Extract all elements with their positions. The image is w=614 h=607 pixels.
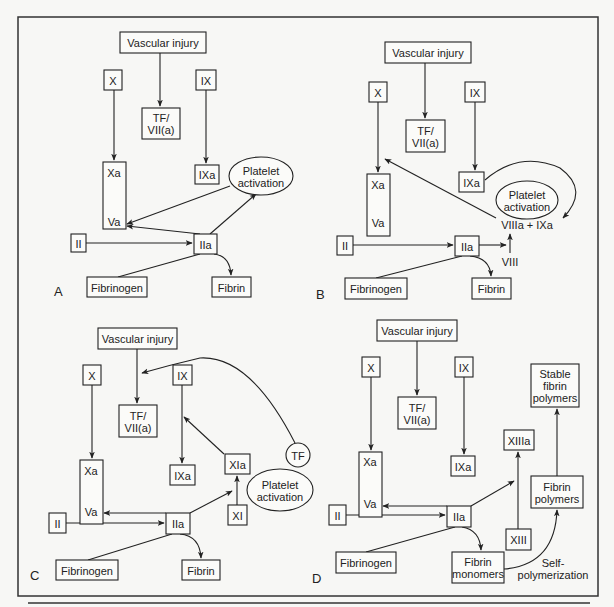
- fibrin-label: Fibrin: [218, 282, 246, 294]
- node-ix: IX: [465, 82, 485, 102]
- x-label: X: [109, 75, 117, 87]
- platelet-activation-label: Plateletactivation: [257, 479, 303, 503]
- node-tf-vii-a: TF/VII(a): [142, 108, 180, 139]
- xi-label: XI: [232, 510, 242, 522]
- node-ii: II: [49, 513, 66, 533]
- node-va-label: Va: [372, 217, 386, 229]
- node-ix: IX: [196, 70, 216, 90]
- x-label: X: [374, 87, 382, 99]
- node-va-label: Va: [108, 216, 122, 228]
- ix-label: IX: [470, 87, 481, 99]
- diagram-canvas: Vascular injuryXIXTF/VII(a)XaVaIXaPlatel…: [0, 0, 614, 607]
- xa-label-label: Xa: [107, 167, 121, 179]
- x-label: X: [88, 370, 96, 382]
- va-label-label: Va: [108, 216, 122, 228]
- arrow-connector: [210, 194, 256, 234]
- ixa-label: IXa: [174, 470, 191, 482]
- panel-c: Vascular injuryXIXTF/VII(a)XaVaIXaXIaTFP…: [30, 328, 313, 583]
- coagulation-cascade-figure: Vascular injuryXIXTF/VII(a)XaVaIXaPlatel…: [0, 0, 614, 607]
- node-fibrin: Fibrin: [182, 560, 220, 580]
- iia-label: IIa: [172, 518, 185, 530]
- node-xa-label: Xa: [84, 465, 98, 477]
- vascular-injury-label: Vascular injury: [127, 37, 199, 49]
- figure-frame: [18, 17, 598, 596]
- vascular-injury-label: Vascular injury: [381, 325, 453, 337]
- node-platelet-activation: Plateletactivation: [247, 469, 313, 511]
- node-ix: IX: [173, 365, 192, 385]
- va-label-label: Va: [372, 217, 386, 229]
- line-connector: [366, 527, 455, 552]
- node-ixa: IXa: [459, 172, 484, 192]
- node-va-label: Va: [364, 498, 378, 510]
- iia-label: IIa: [461, 241, 474, 253]
- ii-label: II: [54, 518, 60, 530]
- x-label: X: [367, 362, 375, 374]
- arrow-connector: [142, 358, 295, 443]
- viii-label: VIII: [502, 256, 519, 268]
- node-self-polymerization: Self-polymerization: [518, 557, 589, 581]
- arrow-connector: [214, 254, 231, 275]
- iia-label: IIa: [199, 239, 212, 251]
- node-fibrinogen: Fibrinogen: [345, 278, 407, 299]
- node-ii: II: [71, 234, 86, 252]
- panel-label: B: [316, 287, 325, 302]
- ixa-label: IXa: [455, 461, 472, 473]
- node-ixa: IXa: [451, 456, 475, 476]
- node-tf-vii-a: TF/VII(a): [119, 405, 157, 437]
- fibrinogen-label: Fibrinogen: [91, 282, 143, 294]
- arrow-connector: [470, 256, 491, 276]
- node-fibrinogen: Fibrinogen: [56, 560, 118, 580]
- ii-label: II: [342, 240, 348, 252]
- arrow-connector: [462, 527, 481, 550]
- node-tf-vii-a: TF/VII(a): [398, 397, 436, 429]
- node-xa-label: Xa: [363, 456, 377, 468]
- ix-label: IX: [459, 362, 470, 374]
- node-iia: IIa: [455, 236, 479, 256]
- node-tf: TF: [286, 443, 310, 467]
- fibrinogen-label: Fibrinogen: [61, 565, 113, 577]
- arrow-connector: [127, 186, 230, 224]
- node-ii: II: [337, 236, 353, 255]
- node-fibrin-polymers: Fibrinpolymers: [531, 476, 583, 508]
- panel-b: Vascular injuryXIXTF/VII(a)XaVaIXaPlatel…: [316, 42, 576, 302]
- vascular-injury-label: Vascular injury: [102, 333, 174, 345]
- arrow-connector: [184, 417, 224, 454]
- xiiia-label: XIIIa: [508, 435, 532, 447]
- fibrin-label: Fibrin: [478, 283, 506, 295]
- panel-label: C: [30, 568, 39, 583]
- xiii-label: XIII: [510, 534, 527, 546]
- arrow-connector: [471, 481, 514, 506]
- ii-label: II: [334, 510, 340, 522]
- panel-label: A: [54, 284, 63, 299]
- node-vascular-injury: Vascular injury: [120, 32, 206, 53]
- xa-label-label: Xa: [84, 465, 98, 477]
- node-fibrin-monomers: Fibrinmonomers: [452, 552, 504, 583]
- tf-label: TF: [291, 450, 305, 462]
- node-xi: XI: [228, 505, 247, 525]
- platelet-activation-label: Plateletactivation: [238, 165, 284, 189]
- arrow-connector: [180, 534, 201, 558]
- node-iia: IIa: [194, 234, 217, 254]
- ixa-label: IXa: [463, 177, 480, 189]
- ix-label: IX: [201, 75, 212, 87]
- node-xia: XIa: [225, 454, 250, 474]
- node-va-label: Va: [85, 506, 99, 518]
- node-fibrinogen: Fibrinogen: [87, 277, 147, 297]
- node-x: X: [369, 82, 387, 102]
- fibrin-label: Fibrin: [187, 565, 215, 577]
- node-stable-fibrin-polymers: Stablefibrinpolymers: [531, 364, 579, 407]
- node-xa-label: Xa: [371, 179, 385, 191]
- node-ixa: IXa: [195, 165, 219, 184]
- ix-label: IX: [177, 370, 188, 382]
- node-fibrin: Fibrin: [212, 277, 251, 297]
- node-vascular-injury: Vascular injury: [385, 42, 471, 63]
- node-platelet-activation: Plateletactivation: [229, 157, 293, 195]
- line-connector: [376, 256, 462, 278]
- fibrinogen-label: Fibrinogen: [340, 557, 392, 569]
- platelet-activation-label: Plateletactivation: [504, 189, 550, 213]
- node-ii: II: [329, 505, 346, 525]
- node-iia: IIa: [447, 506, 471, 527]
- panels-layer: Vascular injuryXIXTF/VII(a)XaVaIXaPlatel…: [30, 32, 588, 586]
- panel-a: Vascular injuryXIXTF/VII(a)XaVaIXaPlatel…: [54, 32, 293, 299]
- arrow-connector: [127, 226, 200, 234]
